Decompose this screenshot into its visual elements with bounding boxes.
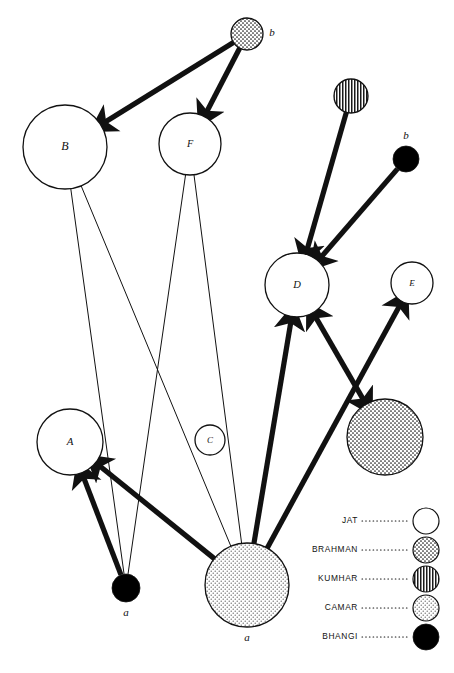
node-outer-label-bhangi-bottom: a: [123, 606, 129, 618]
legend-swatch-kumhar: [413, 566, 439, 592]
node-outer-label-brahman-top: b: [269, 26, 275, 38]
edge-brahman-mid-to-D: [314, 314, 365, 402]
node-label-A: A: [66, 435, 74, 447]
legend-label-kumhar: KUMHAR: [318, 573, 358, 583]
legend-label-camar: CAMAR: [325, 602, 358, 612]
node-outer-label-bhangi-right: b: [403, 129, 409, 141]
node-label-D: D: [292, 279, 301, 290]
legend-swatch-bhangi: [413, 624, 439, 650]
legend-swatch-camar: [413, 595, 439, 621]
node-brahman-mid[interactable]: [347, 399, 423, 475]
node-circle-bhangi-bottom[interactable]: [112, 574, 140, 602]
legend-swatch-jat: [413, 508, 439, 534]
legend-layer: JATBRAHMANKUMHARCAMARBHANGI: [312, 508, 439, 650]
node-label-F: F: [186, 138, 194, 149]
legend-swatch-brahman: [413, 537, 439, 563]
node-circle-camar-bottom[interactable]: [205, 543, 289, 627]
node-circle-brahman-top[interactable]: [231, 18, 263, 50]
edge-camar-bottom-to-A: [97, 464, 214, 559]
edge-bhangi-bottom-to-A: [83, 475, 121, 575]
legend-label-jat: JAT: [342, 515, 358, 525]
node-label-E: E: [408, 278, 415, 288]
node-label-C: C: [207, 435, 214, 445]
node-kumhar-top[interactable]: [334, 79, 368, 113]
node-label-B: B: [61, 139, 69, 153]
node-bhangi-bottom[interactable]: [112, 574, 140, 602]
legend-label-bhangi: BHANGI: [322, 631, 358, 641]
caste-network-diagram: bBFbDEACaa JATBRAHMANKUMHARCAMARBHANGI: [0, 0, 454, 673]
edge-bhangi-right-to-D: [319, 169, 397, 259]
legend-label-brahman: BRAHMAN: [312, 544, 358, 554]
edge-brahman-top-to-B: [102, 42, 233, 123]
node-outer-label-camar-bottom: a: [244, 631, 250, 643]
node-layer: bBFbDEACaa: [23, 18, 433, 643]
node-brahman-top[interactable]: [231, 18, 263, 50]
edge-layer: [71, 42, 401, 574]
edge-F-to-camar-bottom: [194, 175, 242, 544]
edge-B-to-camar-bottom: [81, 186, 231, 546]
node-circle-brahman-mid[interactable]: [347, 399, 423, 475]
node-circle-kumhar-top[interactable]: [334, 79, 368, 113]
node-circle-bhangi-right[interactable]: [393, 146, 419, 172]
diagram-canvas: bBFbDEACaa JATBRAHMANKUMHARCAMARBHANGI: [0, 0, 454, 673]
node-camar-bottom[interactable]: [205, 543, 289, 627]
node-bhangi-right[interactable]: [393, 146, 419, 172]
